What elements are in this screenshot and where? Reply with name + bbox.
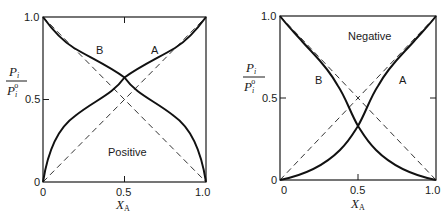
left-chart: B A Positive 1.0 0.5 0 0 0.5 1.0 XA Pi P… [6, 11, 210, 213]
right-chart: B A Negative 1.0 0.5 0 0 0.5 1.0 XA Pi P… [243, 10, 440, 212]
right-ytick-label-bottom: 0 [271, 174, 277, 186]
left-xtick-label-right: 1.0 [195, 186, 210, 198]
left-xlabel: XA [115, 197, 130, 213]
right-ytick-label-top: 1.0 [261, 10, 276, 22]
right-ylabel: Pi Pio [243, 60, 265, 95]
left-region-label: Positive [108, 146, 147, 158]
left-xtick-label-left: 0 [40, 186, 46, 198]
right-curve-b-label: B [315, 74, 322, 86]
right-xtick-label-left: 0 [281, 184, 287, 196]
right-curve-a-label: A [399, 74, 407, 86]
left-ylabel: Pi Pio [6, 64, 27, 99]
left-curve-a-label: A [151, 44, 159, 56]
right-xlabel: XA [350, 196, 365, 212]
svg-text:Pio: Pio [6, 81, 18, 99]
svg-text:Pi: Pi [245, 60, 256, 76]
right-ytick-label-mid: 0.5 [262, 92, 277, 104]
right-region-label: Negative [348, 30, 391, 42]
left-ytick-label-top: 1.0 [24, 11, 39, 23]
left-ytick-label-mid: 0.5 [25, 93, 40, 105]
right-xtick-label-mid: 0.5 [350, 184, 365, 196]
right-xtick-label-right: 1.0 [425, 184, 440, 196]
figure: B A Positive 1.0 0.5 0 0 0.5 1.0 XA Pi P… [0, 0, 447, 213]
svg-text:Pi: Pi [8, 64, 19, 80]
svg-text:Pio: Pio [243, 77, 255, 95]
left-curve-b-label: B [96, 44, 103, 56]
